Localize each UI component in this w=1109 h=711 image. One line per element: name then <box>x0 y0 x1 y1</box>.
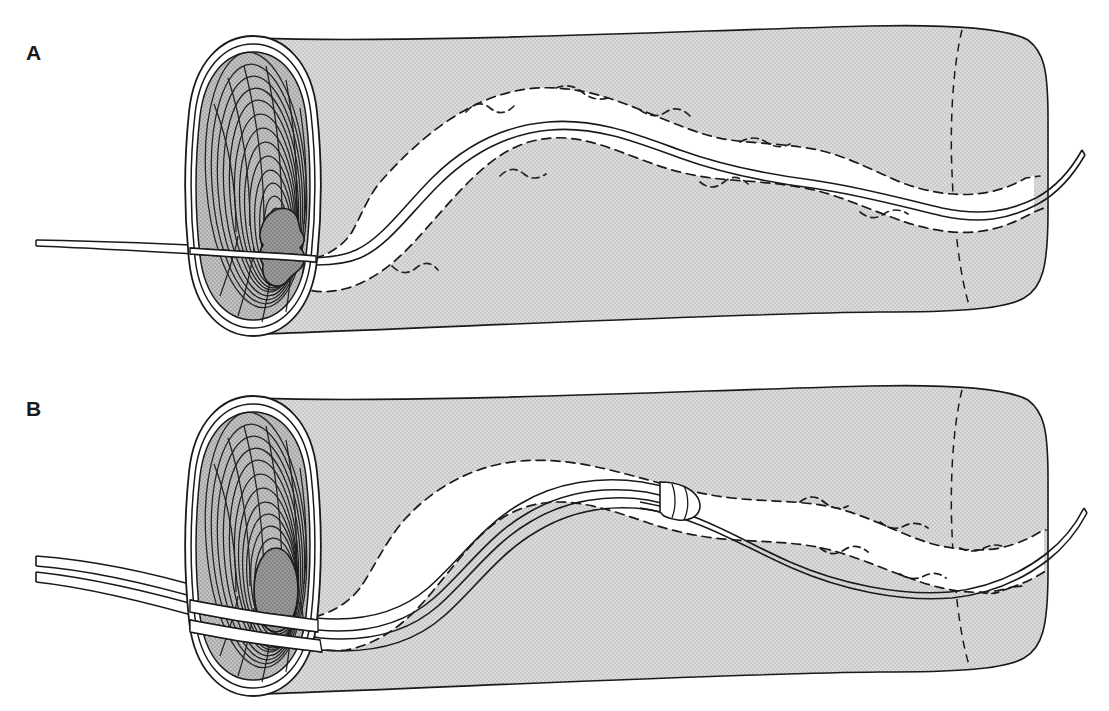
panel-a-group: A <box>26 26 1085 336</box>
tubular-organ-cutaway-b <box>250 386 1048 694</box>
proximal-ostium-cross-section-b <box>185 396 322 696</box>
tubular-organ-cutaway-a <box>250 26 1048 334</box>
figure-root: A <box>0 0 1109 711</box>
panel-a-label: A <box>26 41 41 64</box>
figure-canvas: A <box>0 0 1109 711</box>
panel-b-label: B <box>26 397 41 420</box>
proximal-ostium-cross-section-a <box>185 36 321 336</box>
panel-b-group: B <box>26 386 1087 696</box>
